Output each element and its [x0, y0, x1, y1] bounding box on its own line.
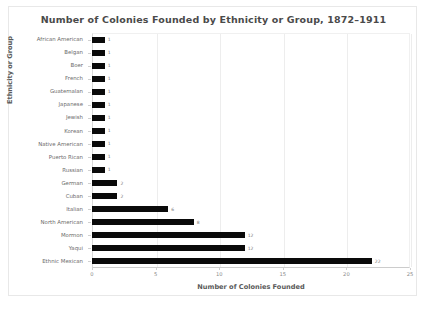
x-tick-label: 20	[343, 271, 350, 277]
bar	[92, 115, 105, 121]
x-tick-label: 0	[90, 271, 93, 277]
y-tick-mark	[88, 53, 91, 54]
bar-value-label: 1	[108, 89, 111, 94]
x-tick-mark	[410, 268, 411, 270]
bar-value-label: 2	[120, 194, 123, 199]
x-tick-mark	[92, 268, 93, 270]
bar-value-label: 1	[108, 115, 111, 120]
y-tick-mark	[88, 170, 91, 171]
y-tick-mark	[88, 248, 91, 249]
y-tick-label: Italian	[66, 206, 83, 212]
y-tick-label: Japanese	[59, 101, 83, 107]
y-tick-label: Korean	[64, 128, 83, 134]
y-tick-mark	[88, 196, 91, 197]
x-tick-mark	[283, 268, 284, 270]
bars-layer: 111111111112268121222	[92, 33, 410, 268]
y-tick-label: German	[61, 180, 83, 186]
bar	[92, 245, 245, 251]
y-tick-label: North American	[41, 219, 83, 225]
bar	[92, 141, 105, 147]
chart-title: Number of Colonies Founded by Ethnicity …	[0, 14, 427, 25]
bar-value-label: 2	[120, 181, 123, 186]
y-tick-mark	[88, 79, 91, 80]
bar-value-label: 6	[171, 207, 174, 212]
bar	[92, 102, 105, 108]
bar	[92, 37, 105, 43]
bar-value-label: 1	[108, 154, 111, 159]
x-tick-mark	[346, 268, 347, 270]
chart-figure: Number of Colonies Founded by Ethnicity …	[0, 0, 427, 309]
y-tick-mark	[88, 235, 91, 236]
y-tick-mark	[88, 40, 91, 41]
bar	[92, 232, 245, 238]
y-tick-label: Belgan	[64, 49, 83, 55]
x-tick-mark	[219, 268, 220, 270]
y-tick-mark	[88, 261, 91, 262]
bar-value-label: 12	[248, 246, 254, 251]
x-tick-label: 10	[216, 271, 223, 277]
y-tick-label: Mormon	[61, 232, 83, 238]
bar	[92, 50, 105, 56]
x-tick-label: 15	[279, 271, 286, 277]
y-tick-mark	[88, 209, 91, 210]
bar	[92, 167, 105, 173]
y-tick-mark	[88, 144, 91, 145]
bar	[92, 63, 105, 69]
bar-value-label: 8	[197, 220, 200, 225]
y-tick-label: Jewish	[66, 114, 83, 120]
bar-value-label: 1	[108, 167, 111, 172]
bar-value-label: 1	[108, 76, 111, 81]
y-tick-label: Yaqui	[69, 245, 83, 251]
bar-value-label: 12	[248, 233, 254, 238]
y-tick-label: African American	[37, 36, 83, 42]
y-tick-mark	[88, 105, 91, 106]
bar-value-label: 22	[375, 259, 381, 264]
bar	[92, 154, 105, 160]
y-tick-label: French	[65, 75, 83, 81]
y-tick-label: Puerto Rican	[49, 154, 83, 160]
y-tick-mark	[88, 183, 91, 184]
bar-value-label: 1	[108, 102, 111, 107]
x-axis-tick-labels: 0510152025	[0, 268, 427, 282]
y-tick-label: Native American	[38, 141, 83, 147]
y-tick-mark	[88, 131, 91, 132]
bar	[92, 180, 117, 186]
bar-value-label: 1	[108, 50, 111, 55]
y-tick-label: Boer	[70, 62, 83, 68]
y-tick-label: Ethnic Mexican	[42, 258, 83, 264]
bar-value-label: 1	[108, 128, 111, 133]
y-axis-title: Ethnicity or Group	[6, 36, 14, 104]
x-tick-label: 5	[154, 271, 157, 277]
y-tick-label: Guatemalan	[50, 88, 83, 94]
bar	[92, 193, 117, 199]
x-axis-title: Number of Colonies Founded	[92, 283, 410, 291]
bar-value-label: 1	[108, 141, 111, 146]
bar	[92, 89, 105, 95]
y-tick-mark	[88, 157, 91, 158]
bar	[92, 206, 168, 212]
y-tick-label: Russian	[62, 167, 83, 173]
y-tick-mark	[88, 222, 91, 223]
bar	[92, 258, 372, 264]
bar-value-label: 1	[108, 37, 111, 42]
gridline	[411, 34, 412, 267]
y-tick-mark	[88, 92, 91, 93]
bar	[92, 76, 105, 82]
y-tick-label: Cuban	[66, 193, 83, 199]
x-tick-label: 25	[407, 271, 414, 277]
bar-value-label: 1	[108, 63, 111, 68]
y-tick-mark	[88, 66, 91, 67]
bar	[92, 128, 105, 134]
y-tick-mark	[88, 118, 91, 119]
bar	[92, 219, 194, 225]
x-tick-mark	[156, 268, 157, 270]
